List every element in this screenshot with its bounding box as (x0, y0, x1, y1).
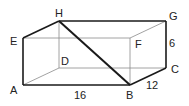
edge-FG (130, 21, 166, 38)
label-A: A (10, 84, 18, 96)
label-D: D (61, 55, 69, 67)
dimension-BC: 12 (146, 79, 158, 91)
dimension-CG: 6 (169, 37, 175, 49)
label-F: F (135, 38, 142, 50)
edge-AD (23, 68, 59, 85)
rectangular-prism-diagram: H G E F D C A B 16 12 6 (0, 0, 189, 106)
label-B: B (126, 89, 133, 101)
label-C: C (171, 63, 179, 75)
label-E: E (10, 35, 17, 47)
diagonal-HB (59, 21, 130, 85)
thick-edges (23, 21, 166, 85)
dimension-AB: 16 (74, 89, 86, 101)
label-G: G (169, 10, 178, 22)
label-H: H (55, 7, 63, 19)
edge-EH (23, 21, 59, 38)
dimension-labels: 16 12 6 (74, 37, 175, 101)
